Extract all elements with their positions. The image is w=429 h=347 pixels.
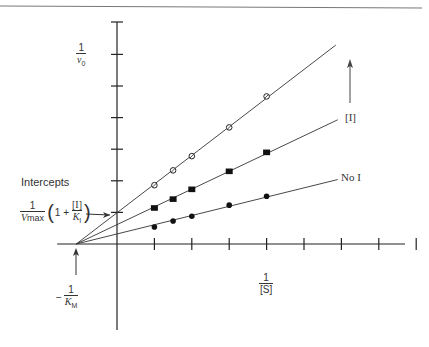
series-lines bbox=[76, 45, 337, 244]
km-minus-sign: − bbox=[56, 292, 62, 303]
inhibitor-label: [I] bbox=[345, 111, 356, 123]
data-point bbox=[151, 205, 158, 211]
series-line bbox=[76, 120, 337, 244]
y-label-subscript: 0 bbox=[81, 60, 85, 67]
vmax-subscript: max bbox=[27, 213, 44, 223]
y-label-numerator: 1 bbox=[77, 42, 85, 53]
series-line bbox=[76, 180, 337, 244]
ki-fraction: [I] KI bbox=[71, 199, 83, 226]
y-axis-label: 1 v0 bbox=[76, 42, 86, 69]
data-point bbox=[264, 193, 270, 199]
km-arrow-icon bbox=[73, 248, 79, 275]
series-line bbox=[76, 45, 336, 244]
km-numerator: 1 bbox=[67, 284, 75, 295]
y-intercept-formula: 1 Vmax ( 1 + [I] KI ) bbox=[20, 199, 91, 225]
km-fraction: 1 KM bbox=[64, 284, 79, 311]
paren-close: ) bbox=[84, 201, 91, 224]
series-markers bbox=[151, 94, 270, 230]
vmax-numerator: 1 bbox=[29, 200, 37, 211]
data-point bbox=[226, 202, 232, 208]
top-rule bbox=[0, 6, 422, 8]
data-point bbox=[263, 150, 270, 156]
data-point bbox=[188, 187, 195, 193]
data-point bbox=[189, 213, 195, 219]
one-plus: 1 + bbox=[55, 207, 69, 218]
x-label-numerator: 1 bbox=[262, 272, 270, 283]
intercepts-label: Intercepts bbox=[21, 176, 69, 188]
x-axis-label: 1 [S] bbox=[259, 272, 273, 295]
no-inhibitor-label: No I bbox=[341, 171, 361, 183]
increasing-inhibitor-arrow-icon bbox=[347, 59, 353, 103]
km-subscript: M bbox=[72, 302, 78, 309]
km-symbol: K bbox=[65, 296, 72, 307]
ki-numerator: [I] bbox=[71, 199, 83, 210]
km-intercept-label: − 1 KM bbox=[56, 284, 78, 311]
data-point bbox=[170, 218, 176, 224]
data-point bbox=[170, 196, 177, 202]
ki-subscript: I bbox=[79, 217, 81, 224]
data-point bbox=[226, 169, 233, 175]
x-label-denominator: [S] bbox=[259, 283, 273, 295]
axes bbox=[57, 22, 416, 330]
vmax-fraction: 1 Vmax bbox=[20, 200, 45, 224]
paren-open: ( bbox=[47, 201, 54, 224]
data-point bbox=[152, 224, 158, 230]
